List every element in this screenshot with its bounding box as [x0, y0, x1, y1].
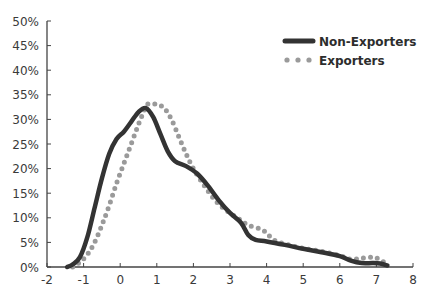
x-tick-label: -2 — [41, 273, 53, 287]
x-tick-label: -1 — [78, 273, 90, 287]
y-axis: 0%5%10%15%20%25%30%35%40%45%50% — [12, 15, 51, 275]
y-tick-label: 5% — [20, 236, 39, 250]
plot-area — [67, 104, 387, 267]
x-tick-label: 2 — [190, 273, 198, 287]
y-tick-label: 25% — [12, 138, 39, 152]
y-tick-label: 35% — [12, 88, 39, 102]
y-tick-label: 50% — [12, 15, 39, 29]
y-tick-label: 15% — [12, 187, 39, 201]
y-tick-label: 10% — [12, 211, 39, 225]
density-chart: 0%5%10%15%20%25%30%35%40%45%50% -2-10123… — [0, 0, 425, 297]
legend-swatch-exporters — [284, 57, 311, 62]
legend-label-non-exporters: Non-Exporters — [319, 35, 416, 49]
x-tick-label: 8 — [409, 273, 417, 287]
x-tick-label: 6 — [336, 273, 344, 287]
y-tick-label: 45% — [12, 39, 39, 53]
x-tick-label: 7 — [373, 273, 381, 287]
x-tick-label: 5 — [299, 273, 307, 287]
x-tick-label: 1 — [153, 273, 161, 287]
exporters-line — [73, 104, 388, 267]
x-axis: -2-1012345678 — [41, 263, 417, 287]
x-tick-label: 4 — [263, 273, 271, 287]
y-tick-label: 20% — [12, 162, 39, 176]
y-tick-label: 0% — [20, 261, 39, 275]
x-tick-label: 3 — [226, 273, 234, 287]
legend-label-exporters: Exporters — [319, 54, 385, 68]
y-tick-label: 30% — [12, 113, 39, 127]
x-tick-label: 0 — [116, 273, 124, 287]
y-tick-label: 40% — [12, 64, 39, 78]
legend: Non-Exporters Exporters — [284, 35, 416, 68]
